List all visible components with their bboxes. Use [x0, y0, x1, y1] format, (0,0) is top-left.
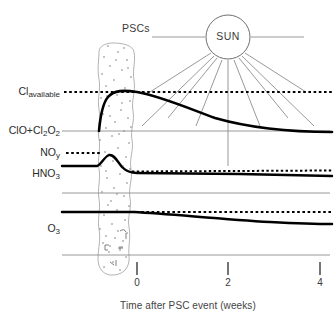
psc-ozone-diagram: PSCs SUN Clavailable ClO+Cl2O2 NOy HNO3 …: [0, 0, 336, 323]
hno3-reference-line: [132, 171, 332, 172]
series-label-noy-sub: y: [56, 151, 60, 160]
diagram-canvas: [0, 0, 336, 323]
x-tick-label-0: 0: [125, 277, 149, 288]
series-label-noy: NOy: [0, 146, 60, 160]
series-label-o3-text: O: [47, 222, 55, 234]
x-axis-ticks: [137, 262, 320, 275]
series-label-clo-sub2: 2: [56, 129, 60, 138]
series-label-cl-available-sub: available: [28, 90, 60, 99]
series-label-cl-available-text: Cl: [19, 85, 29, 97]
clo-cl2o2-curve: [99, 91, 332, 132]
series-label-hno3-text: HNO: [32, 167, 55, 179]
sun-label: SUN: [203, 30, 253, 42]
x-tick-label-2: 2: [216, 277, 240, 288]
series-label-cl-available: Clavailable: [0, 85, 60, 99]
series-label-hno3-sub: 3: [56, 172, 60, 181]
series-label-clo-text: ClO+Cl: [9, 124, 43, 136]
x-tick-label-4: 4: [308, 277, 332, 288]
series-label-clo-text2: O: [47, 124, 55, 136]
psc-label: PSCs: [122, 22, 150, 34]
series-label-o3: O3: [0, 222, 60, 236]
series-label-clo-cl2o2: ClO+Cl2O2: [0, 124, 60, 138]
series-label-hno3: HNO3: [0, 167, 60, 181]
x-axis-label: Time after PSC event (weeks): [40, 300, 336, 311]
series-label-o3-sub: 3: [56, 227, 60, 236]
series-label-noy-text: NO: [40, 146, 56, 158]
